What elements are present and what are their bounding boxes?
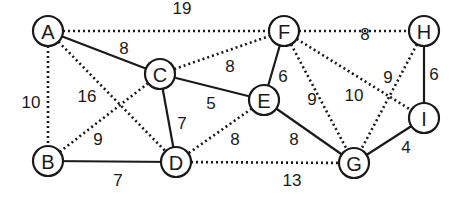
- node-c: C: [145, 59, 175, 89]
- edge-weight-b-d: 7: [113, 171, 122, 190]
- node-i: I: [409, 103, 439, 133]
- edge-weight-e-d: 8: [230, 130, 239, 149]
- node-label: E: [257, 90, 270, 112]
- edge-a-d: [48, 31, 176, 162]
- node-f: F: [269, 16, 299, 46]
- edge-weight-c-d: 7: [177, 114, 186, 133]
- edge-f-i: [284, 31, 424, 118]
- edge-weight-c-f: 8: [225, 57, 234, 76]
- node-e: E: [249, 85, 279, 115]
- edge-c-b: [48, 74, 160, 161]
- node-label: C: [153, 64, 167, 86]
- edge-h-g: [354, 31, 424, 163]
- edge-weight-f-h: 8: [360, 25, 369, 44]
- weighted-graph-diagram: 198810168579691096887134 ABCDEFGHI: [0, 0, 466, 201]
- node-h: H: [409, 16, 439, 46]
- node-a: A: [33, 16, 63, 46]
- node-label: G: [346, 153, 362, 175]
- edge-weight-h-g: 9: [383, 68, 392, 87]
- node-label: B: [41, 151, 54, 173]
- node-b: B: [33, 146, 63, 176]
- edge-weight-e-g: 8: [289, 130, 298, 149]
- node-label: D: [169, 152, 183, 174]
- edge-weight-a-b: 10: [22, 93, 41, 112]
- node-label: F: [278, 21, 290, 43]
- edge-weight-f-e: 6: [278, 67, 287, 86]
- edge-b-d: [48, 161, 176, 162]
- edge-weight-a-d: 16: [78, 87, 97, 106]
- edge-weight-h-i: 6: [429, 65, 438, 84]
- edge-weight-c-e: 5: [206, 94, 215, 113]
- edge-weight-f-g: 9: [307, 90, 316, 109]
- edge-weight-a-c: 8: [119, 39, 128, 58]
- edge-a-c: [48, 31, 160, 74]
- edge-weight-f-i: 10: [345, 86, 364, 105]
- node-label: I: [421, 108, 427, 130]
- edge-d-g: [176, 162, 354, 163]
- edge-c-f: [160, 31, 284, 74]
- edge-e-g: [264, 100, 354, 163]
- node-g: G: [339, 148, 369, 178]
- node-label: H: [417, 21, 431, 43]
- node-d: D: [161, 147, 191, 177]
- node-label: A: [41, 21, 55, 43]
- edge-e-d: [176, 100, 264, 162]
- edge-weight-d-g: 13: [283, 171, 302, 190]
- edge-weight-a-f: 19: [173, 0, 192, 18]
- edge-weight-c-b: 9: [93, 130, 102, 149]
- edge-weight-g-i: 4: [401, 138, 410, 157]
